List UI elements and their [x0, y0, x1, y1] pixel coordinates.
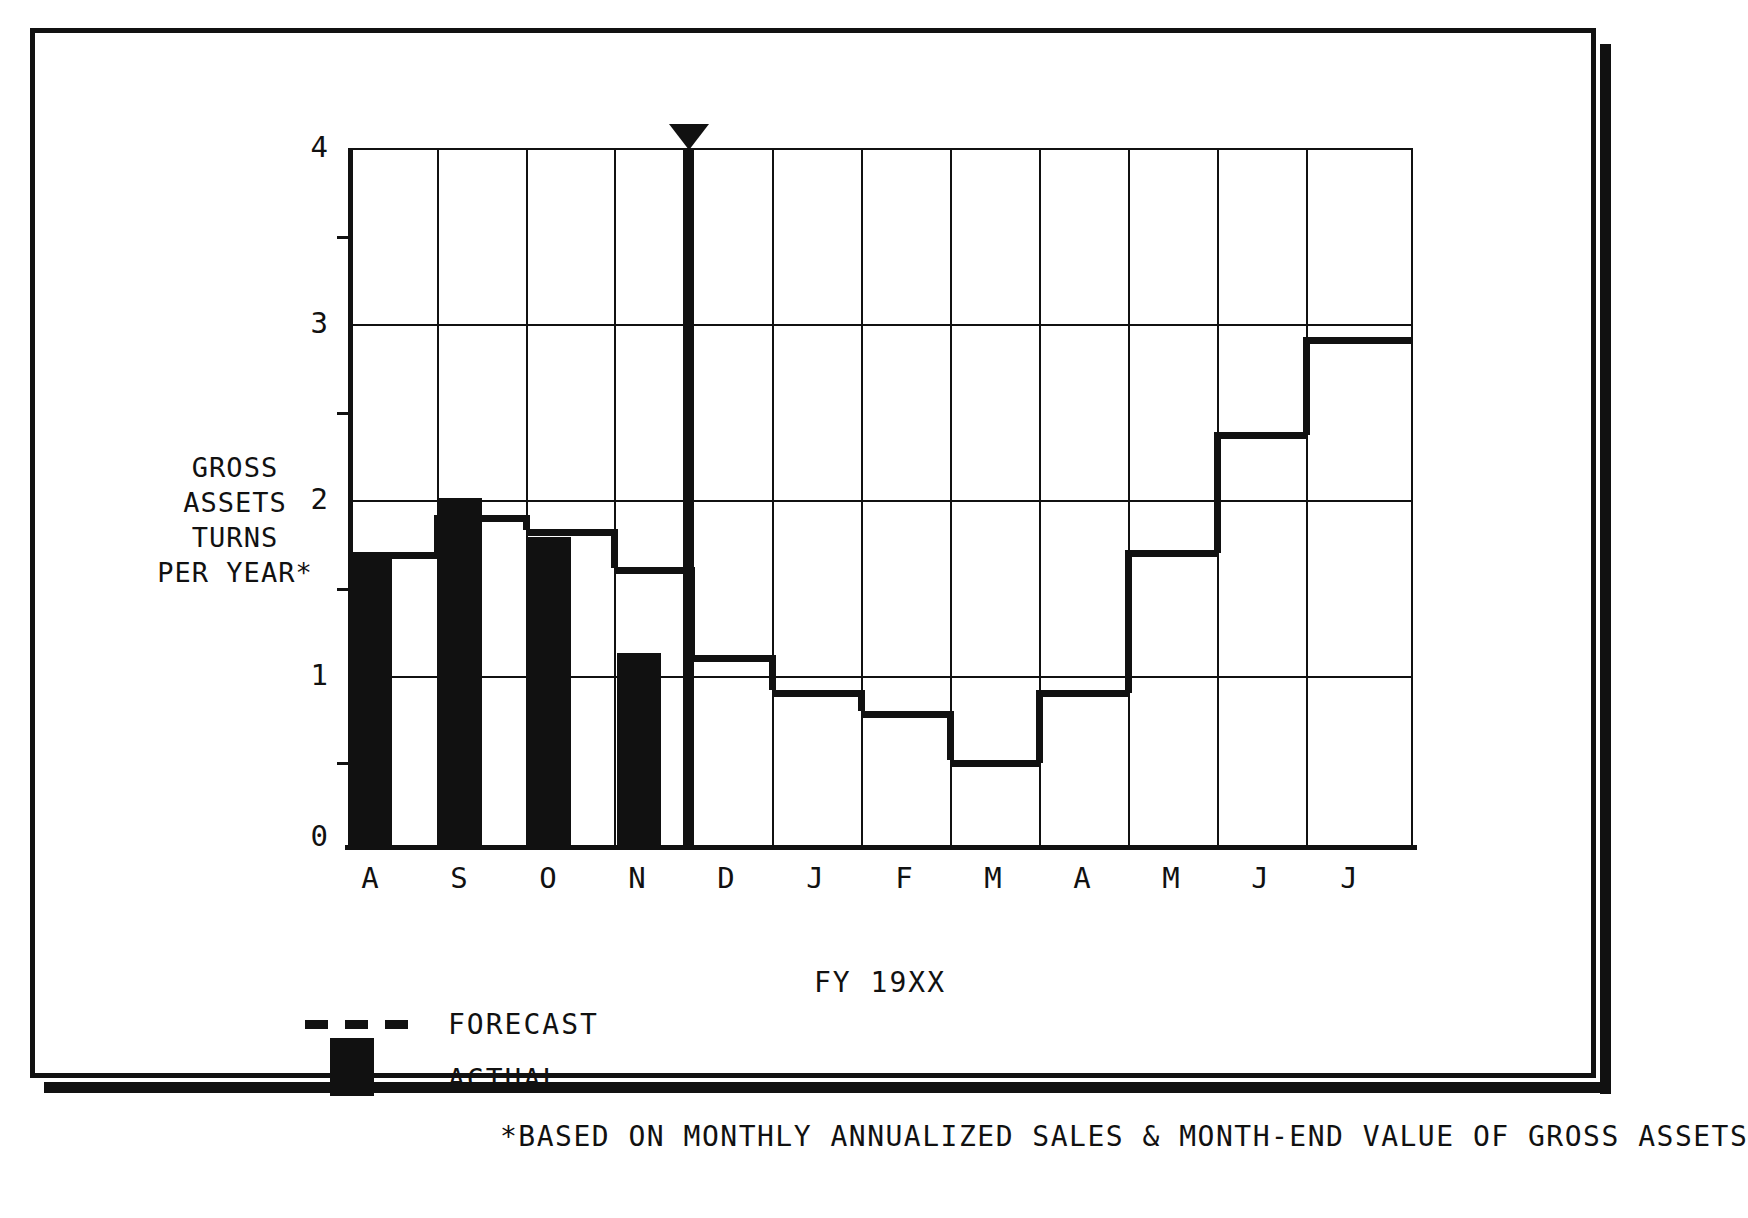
x-tick-label-2: O — [523, 862, 573, 894]
forecast-step-F — [861, 711, 950, 718]
gridline-month-6 — [861, 148, 863, 845]
forecast-riser-A-M — [1125, 550, 1132, 693]
x-tick-label-9: M — [1146, 862, 1196, 894]
x-tick-label-3: N — [612, 862, 662, 894]
forecast-step-A — [348, 552, 437, 559]
page-border-shadow-bottom — [44, 1082, 1611, 1093]
x-tick-label-5: J — [790, 862, 840, 894]
x-axis-title: FY 19XX — [700, 966, 1060, 999]
forecast-step-A2 — [1039, 690, 1128, 697]
x-tick-label-7: M — [968, 862, 1018, 894]
forecast-step-M2 — [1128, 550, 1217, 557]
gridline-month-9 — [1128, 148, 1130, 845]
forecast-riser-S-O — [523, 515, 530, 530]
forecast-riser-M-J — [1214, 432, 1221, 553]
y-axis-title-line-1: GROSS — [130, 450, 340, 485]
gridline-y-2 — [348, 500, 1413, 502]
bar-actual-A — [348, 554, 392, 845]
gridline-month-11 — [1306, 148, 1308, 845]
y-axis-title-line-3: TURNS — [130, 520, 340, 555]
legend-forecast-label: FORECAST — [448, 1008, 599, 1041]
bar-actual-N — [617, 653, 661, 845]
y-tick-label-1: 1 — [288, 661, 328, 690]
page-border-shadow-right — [1600, 44, 1611, 1094]
forecast-riser-O-N — [611, 529, 618, 568]
legend-forecast-swatch — [305, 1020, 417, 1029]
y-axis-title-line-4: PER YEAR* — [130, 555, 340, 590]
gridline-month-5 — [772, 148, 774, 845]
forecast-riser-D-J — [769, 655, 776, 690]
y-tick-label-2: 2 — [288, 485, 328, 514]
x-tick-label-11: J — [1324, 862, 1374, 894]
current-period-marker-arrow-icon — [669, 124, 709, 150]
y-axis-title: GROSS ASSETS TURNS PER YEAR* — [130, 450, 340, 590]
legend-actual-swatch — [330, 1038, 374, 1096]
chart-footnote: *BASED ON MONTHLY ANNUALIZED SALES & MON… — [500, 1120, 1748, 1153]
x-tick-label-1: S — [434, 862, 484, 894]
x-tick-label-4: D — [701, 862, 751, 894]
forecast-riser-F-M — [947, 711, 954, 760]
y-tick-label-0: 0 — [288, 822, 328, 851]
forecast-riser-J-F — [858, 690, 865, 711]
forecast-riser-M-A — [1036, 690, 1043, 763]
forecast-step-J2 — [1217, 432, 1306, 439]
plot-area — [348, 148, 1413, 845]
forecast-step-N — [614, 567, 688, 574]
x-tick-label-0: A — [345, 862, 395, 894]
forecast-step-J1 — [772, 690, 861, 697]
x-tick-label-6: F — [879, 862, 929, 894]
gridline-month-3 — [614, 148, 616, 845]
current-period-marker-line — [683, 148, 694, 845]
gridline-y-1 — [348, 676, 1413, 678]
x-tick-label-8: A — [1057, 862, 1107, 894]
x-axis-line — [345, 845, 1417, 850]
forecast-step-M1 — [950, 760, 1039, 767]
y-tick-3p5 — [337, 236, 353, 239]
forecast-step-S — [437, 515, 526, 522]
legend-actual-label: ACTUAL — [448, 1063, 561, 1096]
forecast-riser-J-J — [1303, 337, 1310, 435]
forecast-step-D — [688, 655, 772, 662]
x-tick-label-10: J — [1235, 862, 1285, 894]
gridline-y-3 — [348, 324, 1413, 326]
y-tick-2p5 — [337, 412, 353, 415]
y-tick-label-4: 4 — [288, 133, 328, 162]
forecast-step-O — [526, 529, 614, 536]
forecast-step-J3 — [1306, 337, 1413, 344]
bar-actual-O — [527, 537, 571, 845]
bar-actual-S — [438, 498, 482, 845]
y-tick-label-3: 3 — [288, 309, 328, 338]
